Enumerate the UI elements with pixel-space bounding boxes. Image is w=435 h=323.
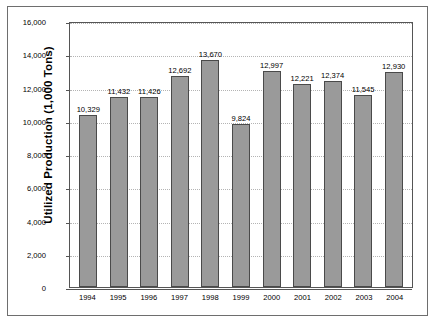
bar-value-label: 12,692 (168, 66, 191, 75)
x-tick-label: 2002 (318, 290, 349, 308)
x-tick-label: 1999 (226, 290, 257, 308)
x-tick-label: 1995 (103, 290, 134, 308)
x-tick-label: 1998 (195, 290, 226, 308)
x-tick-label: 1997 (164, 290, 195, 308)
bar-slot: 11,426 (134, 23, 165, 287)
y-tick-label: 12,000 (0, 84, 46, 93)
bar[interactable]: 11,426 (140, 97, 158, 287)
x-tick-label: 1996 (133, 290, 164, 308)
chart-figure: Utilized Production (1,000 Tons) 10,3291… (0, 0, 435, 323)
y-tick-label: 2,000 (0, 250, 46, 259)
x-tick-label: 2001 (287, 290, 318, 308)
bar[interactable]: 12,221 (293, 84, 311, 287)
bar[interactable]: 10,329 (79, 115, 97, 287)
bar-slot: 9,824 (226, 23, 257, 287)
bar[interactable]: 13,670 (201, 60, 219, 287)
bar-value-label: 9,824 (231, 114, 250, 123)
x-tick-label: 2004 (379, 290, 410, 308)
bar[interactable]: 12,997 (263, 71, 281, 287)
bar-value-label: 12,997 (260, 61, 283, 70)
x-axis-ticks: 1994199519961997199819992000200120022003… (69, 290, 413, 308)
y-tick-label: 0 (0, 284, 46, 293)
bar-slot: 12,930 (378, 23, 409, 287)
bar[interactable]: 12,374 (324, 81, 342, 287)
bar[interactable]: 11,432 (110, 97, 128, 287)
y-tick-label: 10,000 (0, 117, 46, 126)
bar-value-label: 11,432 (107, 87, 130, 96)
bar-value-label: 12,930 (382, 62, 405, 71)
bar-slot: 12,997 (256, 23, 287, 287)
y-tick-label: 16,000 (0, 18, 46, 27)
bar-value-label: 10,329 (77, 105, 100, 114)
y-tick-label: 14,000 (0, 51, 46, 60)
bar-value-label: 11,426 (138, 87, 161, 96)
bar-slot: 12,374 (317, 23, 348, 287)
bar-value-label: 11,545 (352, 85, 375, 94)
bar-slot: 12,221 (287, 23, 318, 287)
bar-slot: 12,692 (165, 23, 196, 287)
bar-value-label: 12,374 (321, 71, 344, 80)
y-tick-label: 4,000 (0, 217, 46, 226)
x-tick-label: 2003 (349, 290, 380, 308)
bar[interactable]: 12,930 (385, 72, 403, 287)
bar[interactable]: 9,824 (232, 124, 250, 287)
bar-slot: 13,670 (195, 23, 226, 287)
y-tick-label: 6,000 (0, 184, 46, 193)
bar-slot: 11,432 (104, 23, 135, 287)
bar-slot: 11,545 (348, 23, 379, 287)
y-tick-label: 8,000 (0, 151, 46, 160)
x-tick-label: 2000 (256, 290, 287, 308)
plot-area: 10,32911,43211,42612,69213,6709,82412,99… (69, 22, 413, 288)
bar[interactable]: 12,692 (171, 76, 189, 287)
bar-slot: 10,329 (73, 23, 104, 287)
x-tick-label: 1994 (72, 290, 103, 308)
figure-border: Utilized Production (1,000 Tons) 10,3291… (7, 6, 428, 316)
bar-value-label: 13,670 (199, 50, 222, 59)
bar-value-label: 12,221 (290, 74, 313, 83)
bar-series: 10,32911,43211,42612,69213,6709,82412,99… (70, 23, 412, 287)
bar[interactable]: 11,545 (354, 95, 372, 287)
